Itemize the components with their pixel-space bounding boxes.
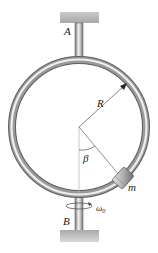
label-mass: m xyxy=(128,181,136,193)
label-b: B xyxy=(63,215,70,227)
top-shaft xyxy=(75,23,83,58)
label-a: A xyxy=(63,25,71,37)
label-omega-subscript: 0 xyxy=(102,208,105,214)
rotating-hoop-diagram: A B R β m ω0 xyxy=(0,0,158,253)
angle-arc xyxy=(79,146,95,150)
label-angle: β xyxy=(82,152,89,164)
label-radius: R xyxy=(96,97,104,109)
bottom-support-block xyxy=(60,230,99,242)
top-support-block xyxy=(60,12,99,23)
label-omega: ω0 xyxy=(96,203,105,214)
